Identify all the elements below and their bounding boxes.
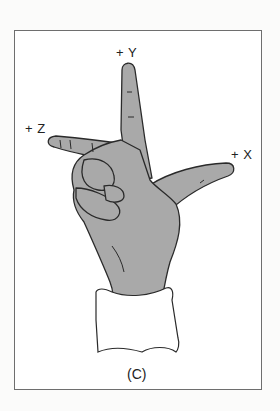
axis-label-z: + Z	[25, 121, 46, 136]
axis-label-x: + X	[231, 147, 252, 162]
figure-caption: (C)	[127, 366, 146, 382]
axis-label-y: + Y	[116, 45, 137, 60]
right-hand-rule-illustration	[0, 0, 280, 411]
hand-icon	[48, 63, 234, 310]
sleeve	[96, 288, 179, 352]
